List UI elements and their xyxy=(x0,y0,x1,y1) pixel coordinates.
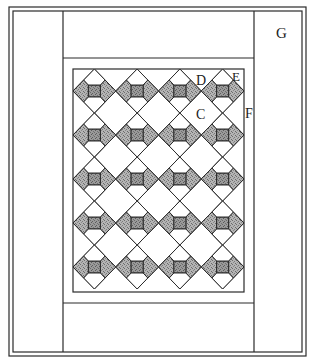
block-bottom-triangle xyxy=(126,273,147,289)
block-bottom-triangle xyxy=(212,273,233,289)
block-right-patch xyxy=(229,168,244,190)
block-right-patch xyxy=(229,124,244,146)
block-top-triangle xyxy=(212,69,233,85)
block-center-square xyxy=(217,85,229,97)
block-left-patch xyxy=(73,80,88,102)
block-center-square xyxy=(88,261,100,273)
block-top-triangle xyxy=(169,69,190,85)
block-left-patch xyxy=(73,168,88,190)
quilt-diagram: D E C F G xyxy=(0,0,315,362)
block-center-square xyxy=(217,261,229,273)
block-center-square xyxy=(174,261,186,273)
block-center-square xyxy=(217,129,229,141)
block-bottom-triangle xyxy=(84,273,105,289)
block-center-square xyxy=(131,217,143,229)
label-e: E xyxy=(232,69,240,84)
block-grid xyxy=(73,69,244,289)
block-left-patch xyxy=(73,212,88,234)
block-left-patch xyxy=(73,256,88,278)
block-right-patch xyxy=(229,256,244,278)
block-top-triangle xyxy=(126,69,147,85)
label-d: D xyxy=(196,73,206,88)
block-center-square xyxy=(88,129,100,141)
block-center-square xyxy=(88,217,100,229)
block-right-patch xyxy=(229,212,244,234)
block-center-square xyxy=(88,85,100,97)
label-c: C xyxy=(196,107,205,122)
block-center-square xyxy=(174,129,186,141)
label-f: F xyxy=(245,106,253,121)
block-center-square xyxy=(217,217,229,229)
label-g: G xyxy=(276,25,287,41)
block-center-square xyxy=(131,129,143,141)
block-center-square xyxy=(174,217,186,229)
block-center-square xyxy=(174,173,186,185)
block-bottom-triangle xyxy=(169,273,190,289)
block-left-patch xyxy=(73,124,88,146)
block-center-square xyxy=(131,173,143,185)
block-center-square xyxy=(88,173,100,185)
block-top-triangle xyxy=(84,69,105,85)
block-center-square xyxy=(131,85,143,97)
block-center-square xyxy=(131,261,143,273)
block-center-square xyxy=(217,173,229,185)
block-center-square xyxy=(174,85,186,97)
